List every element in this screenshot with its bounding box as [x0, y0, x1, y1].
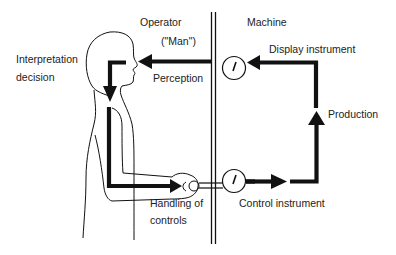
flow-arrows: [103, 54, 325, 193]
label-operator: Operator: [140, 16, 181, 28]
label-decision: decision: [16, 71, 55, 83]
diagram-canvas: [0, 0, 396, 255]
arrow-perception: [138, 54, 211, 69]
arrow-interpretation: [103, 63, 126, 103]
label-machine: Machine: [247, 16, 287, 28]
label-handling: Handling of: [150, 197, 203, 209]
label-perception: Perception: [153, 72, 203, 84]
label-display-instrument: Display instrument: [269, 43, 355, 55]
arrow-handling: [109, 107, 182, 193]
label-man: ("Man"): [161, 35, 196, 47]
arrow-display: [247, 55, 316, 108]
display-instrument-dial-icon: [223, 57, 246, 80]
interface-boundary: [212, 12, 216, 244]
label-interpretation: Interpretation: [16, 53, 78, 65]
man-machine-diagram: Operator ("Man") Machine Interpretation …: [0, 0, 396, 255]
label-control-instrument: Control instrument: [239, 197, 325, 209]
control-instrument-dial-icon: [223, 170, 246, 193]
label-production: Production: [328, 108, 378, 120]
label-controls: controls: [150, 214, 187, 226]
arrow-production: [246, 111, 325, 182]
arrow-control-out: [246, 174, 287, 189]
